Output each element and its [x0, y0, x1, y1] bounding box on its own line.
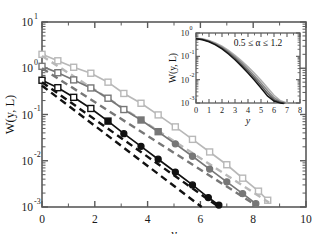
data-marker-square	[88, 105, 94, 111]
inset-y-tick-exponent: 0	[190, 25, 193, 31]
y-tick-label: 10	[22, 201, 34, 213]
y-tick-label: 10	[22, 155, 34, 167]
inset-ylabel: W(y, L)	[168, 53, 179, 83]
inset-y-tick-exponent: -1	[190, 49, 195, 55]
inset-x-tick-label: 3	[233, 106, 237, 115]
y-tick-exponent: -3	[34, 197, 41, 206]
x-tick-label: 6	[198, 213, 204, 225]
data-marker-square	[105, 95, 111, 101]
inset-x-tick-label: 8	[298, 106, 302, 115]
data-marker-square	[88, 70, 94, 76]
data-marker-square	[155, 129, 161, 135]
y-tick-label: 10	[22, 109, 34, 121]
x-tick-label: 2	[92, 213, 98, 225]
data-marker-circle	[224, 179, 230, 185]
main-xlabel: y	[169, 226, 177, 234]
inset-annotation: 0.5 ≤ α ≤ 1.2	[234, 38, 283, 48]
inset-y-tick-exponent: -2	[190, 72, 195, 78]
data-marker-square	[121, 107, 127, 113]
data-marker-square	[207, 149, 213, 155]
data-marker-circle	[138, 143, 144, 149]
y-tick-exponent: -1	[34, 104, 41, 113]
data-marker-square	[55, 85, 61, 91]
data-marker-circle	[207, 166, 213, 172]
data-marker-square	[138, 100, 144, 106]
data-marker-square	[71, 77, 77, 83]
data-marker-square	[71, 94, 77, 100]
inset-x-tick-label: 5	[259, 106, 263, 115]
x-tick-label: 8	[250, 213, 256, 225]
data-marker-square	[121, 90, 127, 96]
data-marker-square	[55, 58, 61, 64]
inset-x-tick-label: 4	[246, 106, 250, 115]
data-marker-square	[172, 124, 178, 130]
data-marker-square	[55, 70, 61, 76]
inset-y-tick-label: 10	[181, 99, 189, 108]
data-marker-circle	[189, 153, 195, 159]
y-tick-exponent: 0	[34, 58, 38, 67]
x-tick-label: 10	[300, 213, 312, 225]
x-tick-label: 0	[39, 213, 45, 225]
main-ylabel: W(y, L)	[3, 95, 17, 134]
x-tick-label: 4	[145, 213, 151, 225]
data-marker-square	[155, 112, 161, 118]
inset-y-tick-label: 10	[181, 29, 189, 38]
inset-y-tick-exponent: -3	[190, 95, 195, 101]
inset-x-tick-label: 0	[194, 106, 198, 115]
y-tick-exponent: 1	[34, 12, 38, 21]
data-marker-square	[105, 79, 111, 85]
inset-plot-area: 01234567810010-110-210-3yW(y, L)0.5 ≤ α …	[168, 25, 302, 126]
data-marker-square	[105, 118, 111, 124]
inset-x-tick-label: 7	[285, 106, 289, 115]
data-marker-square	[88, 85, 94, 91]
data-marker-circle	[189, 182, 195, 188]
inset-x-tick-label: 2	[220, 106, 224, 115]
plot-canvas: 024681010110010-110-210-3yW(y, L)0123456…	[0, 0, 315, 234]
data-marker-circle	[172, 141, 178, 147]
data-marker-square	[138, 117, 144, 123]
inset-x-tick-label: 1	[207, 106, 211, 115]
inset-y-tick-label: 10	[181, 76, 189, 85]
y-tick-exponent: -2	[34, 150, 41, 159]
figure-root: 024681010110010-110-210-3yW(y, L)0123456…	[0, 0, 315, 234]
data-marker-square	[189, 136, 195, 142]
inset-x-tick-label: 6	[272, 106, 276, 115]
y-tick-label: 10	[22, 16, 34, 28]
inset-xlabel: y	[245, 115, 251, 126]
y-tick-label: 10	[22, 62, 34, 74]
data-marker-circle	[172, 169, 178, 175]
data-marker-circle	[121, 131, 127, 137]
data-marker-square	[240, 175, 246, 181]
inset-y-tick-label: 10	[181, 52, 189, 61]
data-marker-square	[224, 162, 230, 168]
data-marker-square	[71, 64, 77, 70]
